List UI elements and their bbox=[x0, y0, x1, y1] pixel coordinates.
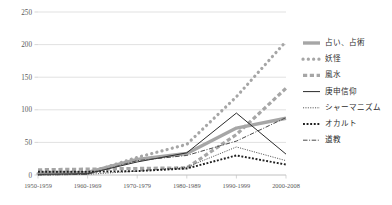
y-axis-labels-group: 050100150200250 bbox=[21, 9, 32, 180]
legend-label-4: シャーマニズム bbox=[325, 102, 381, 112]
x-axis-tick-label: 1970-1979 bbox=[123, 182, 151, 189]
data-series-group bbox=[38, 41, 286, 175]
series-line-1 bbox=[38, 41, 286, 173]
y-axis-tick-label: 50 bbox=[25, 139, 33, 147]
legend-label-5: オカルト bbox=[325, 119, 357, 128]
y-tick-marks-group bbox=[35, 12, 39, 175]
legend-label-0: 占い、占術 bbox=[325, 37, 365, 47]
y-axis-tick-label: 150 bbox=[21, 74, 32, 82]
x-axis-tick-label: 1960-1969 bbox=[74, 182, 102, 189]
x-axis-tick-label: 1980-1989 bbox=[173, 182, 201, 189]
x-axis-tick-label: 1990-1999 bbox=[223, 182, 251, 189]
legend-label-1: 妖怪 bbox=[325, 53, 341, 63]
y-axis-tick-label: 100 bbox=[21, 106, 32, 114]
x-tick-marks-group bbox=[38, 175, 286, 179]
y-axis-tick-label: 250 bbox=[21, 9, 32, 17]
chart-container: 050100150200250 1950-19591960-19691970-1… bbox=[0, 0, 392, 205]
y-axis-tick-label: 0 bbox=[28, 172, 32, 180]
y-axis-tick-label: 200 bbox=[21, 41, 32, 49]
line-chart: 050100150200250 1950-19591960-19691970-1… bbox=[0, 0, 392, 205]
legend-label-2: 風水 bbox=[325, 69, 341, 79]
x-axis-tick-label: 1950-1959 bbox=[24, 182, 52, 189]
chart-legend: 占い、占術妖怪風水庚申信仰シャーマニズムオカルト道教 bbox=[303, 37, 381, 144]
series-line-0 bbox=[38, 118, 286, 173]
legend-label-6: 道教 bbox=[325, 134, 341, 144]
x-axis-tick-label: 2000-2008 bbox=[272, 182, 300, 189]
x-axis-labels-group: 1950-19591960-19691970-19791980-19891990… bbox=[24, 182, 300, 189]
legend-label-3: 庚申信仰 bbox=[325, 86, 357, 96]
